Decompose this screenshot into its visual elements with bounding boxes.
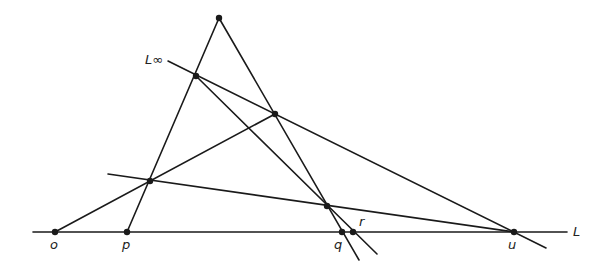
label-L: L <box>573 225 580 238</box>
projective-diagram <box>0 0 603 277</box>
label-q: q <box>334 238 342 251</box>
line-a-r <box>196 76 377 254</box>
point-q <box>339 229 345 235</box>
point-c <box>147 178 153 184</box>
point-u <box>511 229 517 235</box>
point-a <box>193 73 199 79</box>
label-L-infinity: L∞ <box>145 53 163 66</box>
label-r: r <box>359 215 364 228</box>
point-o <box>52 229 58 235</box>
label-u: u <box>508 238 516 251</box>
line-L-infinity <box>168 61 546 248</box>
label-o: o <box>50 238 58 251</box>
point-b <box>272 111 278 117</box>
line-apex-p <box>127 18 219 232</box>
line-c-u <box>108 174 514 232</box>
point-r <box>350 229 356 235</box>
line-o-b <box>55 114 275 232</box>
line-apex-q <box>219 18 359 260</box>
point-d <box>324 203 330 209</box>
point-p <box>124 229 130 235</box>
point-apex <box>216 15 222 21</box>
label-p: p <box>122 238 130 251</box>
